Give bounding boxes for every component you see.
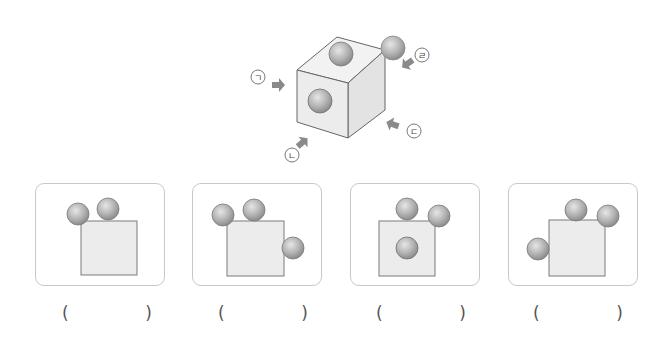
label-d: ㄹ [415, 48, 429, 62]
svg-text:ㄴ: ㄴ [288, 151, 296, 161]
answer-slot-4: ( ) [533, 303, 623, 327]
close-paren: ) [459, 303, 466, 323]
svg-text:ㄷ: ㄷ [410, 127, 418, 137]
open-paren: ( [376, 303, 383, 323]
ball [396, 198, 418, 220]
answer-slot-2: ( ) [218, 303, 308, 327]
option-box-2[interactable] [192, 183, 322, 286]
ball [428, 205, 450, 227]
ball [396, 237, 418, 259]
option-view-1 [36, 184, 166, 287]
open-paren: ( [62, 303, 69, 323]
ball [243, 199, 265, 221]
option-view-3 [351, 184, 481, 287]
close-paren: ) [301, 303, 308, 323]
arrow-icon [384, 115, 401, 133]
label-b: ㄴ [285, 148, 299, 162]
open-paren: ( [533, 303, 540, 323]
ball [597, 205, 619, 227]
answer-input-3[interactable] [390, 303, 452, 325]
label-a: ㄱ [251, 70, 265, 84]
ball [527, 238, 549, 260]
answer-slot-1: ( ) [62, 303, 152, 327]
close-paren: ) [145, 303, 152, 323]
option-box-1[interactable] [35, 183, 165, 286]
option-box-4[interactable] [508, 183, 638, 286]
ball-top [329, 42, 353, 66]
ball-corner [381, 36, 405, 60]
ball-front [308, 89, 332, 113]
option-box-3[interactable] [350, 183, 480, 286]
open-paren: ( [218, 303, 225, 323]
option-view-4 [509, 184, 639, 287]
cube-figure: ㄱ ㄴ ㄷ ㄹ [0, 0, 672, 175]
option-view-2 [193, 184, 323, 287]
ball [212, 204, 234, 226]
answer-input-2[interactable] [232, 303, 294, 325]
answer-slot-3: ( ) [376, 303, 466, 327]
arrow-icon [272, 78, 285, 92]
answer-input-1[interactable] [76, 303, 138, 325]
svg-text:ㄱ: ㄱ [254, 73, 262, 83]
answer-input-4[interactable] [547, 303, 609, 325]
label-c: ㄷ [407, 124, 421, 138]
ball [67, 203, 89, 225]
close-paren: ) [616, 303, 623, 323]
ball [97, 198, 119, 220]
ball [282, 237, 304, 259]
ball [565, 199, 587, 221]
svg-text:ㄹ: ㄹ [418, 51, 426, 61]
